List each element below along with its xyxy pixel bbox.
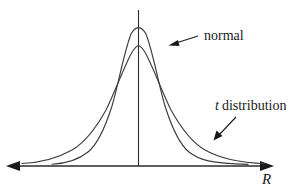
t-variable-glyph: t xyxy=(215,98,222,113)
normal-curve-label: normal xyxy=(204,29,244,43)
t-vs-normal-distribution-figure: normal tdistribution R xyxy=(0,0,299,192)
t-distribution-label: tdistribution xyxy=(215,99,286,113)
x-axis-right-arrowhead xyxy=(260,161,274,171)
t-distribution-callout-arrow xyxy=(214,117,237,141)
distribution-plot-svg xyxy=(0,0,299,192)
normal-curve xyxy=(52,28,248,165)
normal-callout-arrow xyxy=(169,36,199,46)
x-axis-left-arrowhead xyxy=(6,161,20,171)
x-axis-label: R xyxy=(262,172,271,187)
t-distribution-word: distribution xyxy=(222,98,287,113)
